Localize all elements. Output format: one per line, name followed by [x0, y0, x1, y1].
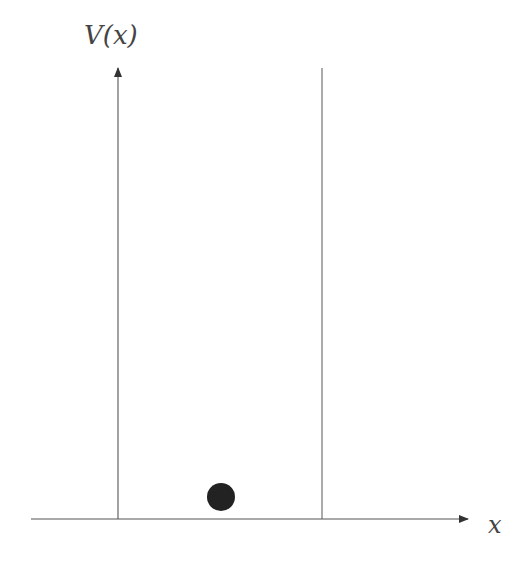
square-well-diagram: V(x) x	[0, 0, 531, 561]
x-axis-label: x	[488, 511, 502, 539]
particle	[207, 483, 235, 511]
y-axis-label: V(x)	[84, 20, 138, 50]
